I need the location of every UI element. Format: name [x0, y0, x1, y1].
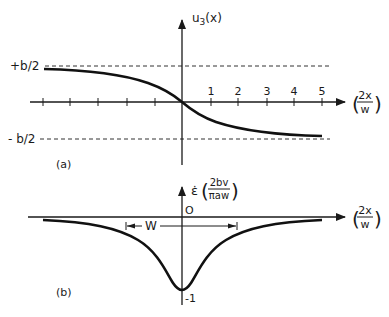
- svg-text:): ): [374, 207, 382, 231]
- svg-text:2x: 2x: [358, 89, 372, 102]
- panel-b-label: (b): [56, 286, 72, 299]
- svg-text:w: w: [361, 103, 370, 116]
- tick-label-3: 3: [264, 85, 271, 98]
- lower-asymptote-label: - b/2: [8, 132, 35, 146]
- origin-label: O: [185, 204, 194, 217]
- width-label: W: [145, 219, 157, 233]
- svg-text:2bv: 2bv: [210, 177, 229, 188]
- tick-label-1: 1: [208, 85, 215, 98]
- x-axis-label-b: ( 2x w ): [352, 204, 382, 231]
- panel-b: W O -1 ε̇ ( 2bv πaw ) ( 2x w ) (b): [28, 177, 382, 305]
- tick-label-4: 4: [291, 85, 298, 98]
- y-axis-label-a: u3(x): [192, 11, 222, 27]
- panel-a: 1 2 3 4 5 +b/2 - b/2 u3(x) ( 2x w ) (a): [8, 11, 382, 171]
- tick-label-2: 2: [235, 85, 242, 98]
- svg-text:(: (: [201, 179, 209, 203]
- x-axis-label-a: ( 2x w ): [352, 89, 382, 116]
- panel-a-label: (a): [56, 158, 71, 171]
- tick-label-5: 5: [319, 85, 326, 98]
- upper-asymptote-label: +b/2: [10, 59, 39, 73]
- svg-text:w: w: [361, 218, 370, 231]
- svg-text:): ): [374, 92, 382, 116]
- figure-canvas: 1 2 3 4 5 +b/2 - b/2 u3(x) ( 2x w ) (a): [0, 0, 389, 317]
- svg-text:πaw: πaw: [209, 190, 229, 201]
- svg-text:2x: 2x: [358, 204, 372, 217]
- min-label: -1: [185, 292, 196, 305]
- svg-text:): ): [231, 179, 239, 203]
- svg-text:ε̇: ε̇: [191, 183, 198, 198]
- y-axis-label-b: ε̇ ( 2bv πaw ): [191, 177, 239, 203]
